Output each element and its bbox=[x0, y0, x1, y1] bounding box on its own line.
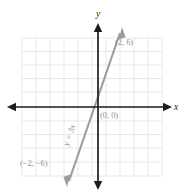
y-axis-label: y bbox=[95, 9, 101, 19]
y-axis-arrow-down-icon bbox=[94, 181, 102, 190]
x-axis-arrow-right-icon bbox=[163, 103, 172, 111]
point-label-lower: (−2, −6) bbox=[20, 159, 48, 168]
coordinate-plane-figure: x y (2, 6) (0, 0) (−2, −6) y = 3x bbox=[0, 0, 189, 193]
x-axis-arrow-left-icon bbox=[7, 103, 16, 111]
x-axis-label: x bbox=[173, 102, 179, 112]
y-axis-arrow-up-icon bbox=[94, 23, 102, 32]
graph-svg: x y (2, 6) (0, 0) (−2, −6) y = 3x bbox=[0, 0, 189, 193]
point-label-upper: (2, 6) bbox=[115, 38, 133, 47]
point-label-origin: (0, 0) bbox=[100, 111, 118, 120]
